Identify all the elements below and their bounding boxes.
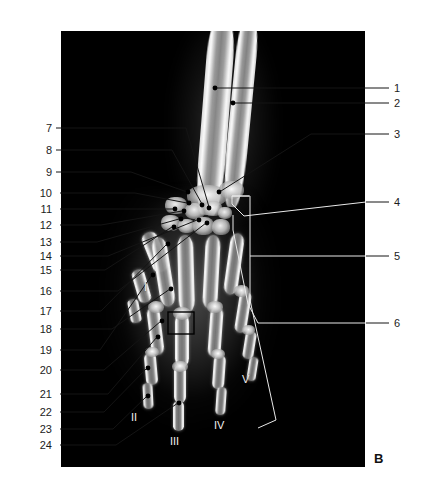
digit-label-5: V	[242, 374, 249, 385]
label-5: 5	[394, 251, 400, 262]
label-21: 21	[22, 389, 52, 400]
label-17: 17	[22, 306, 52, 317]
radiograph-image	[61, 31, 365, 467]
mcp-joint-5	[234, 285, 249, 297]
mcp-joint-4	[207, 301, 223, 313]
carpal-bone-pisiform	[218, 207, 232, 219]
label-8: 8	[22, 145, 52, 156]
carpal-bone-hamate	[212, 219, 230, 235]
carpal-bone-scaphoid	[165, 197, 187, 214]
label-7: 7	[22, 123, 52, 134]
carpal-bone-capitate	[193, 217, 214, 235]
label-10: 10	[22, 188, 52, 199]
label-15: 15	[22, 265, 52, 276]
label-4: 4	[394, 197, 400, 208]
label-6: 6	[394, 318, 400, 329]
radiograph-figure: 1 2 3 4 5 6 7 8 9 10 11 12 13 14 15 16 1…	[0, 0, 423, 498]
label-12: 12	[22, 220, 52, 231]
proximal-phalanx-3	[175, 313, 189, 367]
label-11: 11	[22, 204, 52, 215]
distal-phalanx-3	[173, 401, 184, 431]
label-20: 20	[22, 365, 52, 376]
middle-phalanx-4	[212, 355, 226, 390]
label-14: 14	[22, 251, 52, 262]
digit-label-2: II	[131, 412, 137, 423]
label-9: 9	[22, 167, 52, 178]
label-24: 24	[22, 440, 52, 451]
label-18: 18	[22, 324, 52, 335]
mcp-joint-3	[173, 307, 191, 320]
label-13: 13	[22, 237, 52, 248]
pip-joint-3	[172, 361, 188, 372]
metacarpal-3	[177, 235, 195, 313]
label-2: 2	[394, 98, 400, 109]
digit-label-4: IV	[214, 420, 224, 431]
pip-joint-4	[211, 349, 225, 359]
pip-joint-2	[145, 347, 159, 357]
label-3: 3	[394, 129, 400, 140]
mcp-joint-2	[148, 301, 164, 313]
digit-label-1: I	[144, 282, 147, 293]
distal-ulna-epiphysis	[219, 181, 244, 199]
panel-letter: B	[374, 452, 383, 465]
label-22: 22	[22, 407, 52, 418]
label-23: 23	[22, 424, 52, 435]
label-1: 1	[394, 83, 400, 94]
radiograph-plate	[61, 31, 365, 467]
distal-phalanx-4	[215, 387, 227, 416]
label-16: 16	[22, 286, 52, 297]
digit-label-3: III	[170, 436, 179, 447]
label-19: 19	[22, 345, 52, 356]
pip-joint-5	[242, 325, 255, 335]
distal-phalanx-2	[142, 383, 153, 409]
